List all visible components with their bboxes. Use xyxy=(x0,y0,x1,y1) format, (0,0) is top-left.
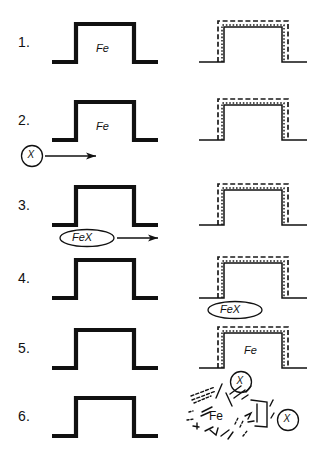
plateau-thick-shape xyxy=(50,324,160,376)
plateau-thin-coated-shape xyxy=(198,18,308,70)
row6-left-specimen xyxy=(50,392,160,444)
row4-left-specimen xyxy=(50,254,160,306)
row2-right-specimen xyxy=(198,96,308,148)
step-number-3: 3. xyxy=(18,197,30,213)
plateau-thin-coated-shape xyxy=(198,181,308,233)
row4-species-fex-label: FeX xyxy=(220,303,240,315)
row1-left-inner-label: Fe xyxy=(96,42,109,54)
row6-right-inner-label: Fe xyxy=(209,409,223,423)
diagram-row-2: 2. Fe X xyxy=(0,90,314,170)
row3-species-fex-label: FeX xyxy=(72,231,92,243)
figure-canvas: 1. Fe 2. xyxy=(0,0,314,466)
row2-left-specimen: Fe xyxy=(50,96,160,148)
row2-species-x-label: X xyxy=(28,149,35,160)
step-number-5: 5. xyxy=(18,340,30,356)
row2-left-inner-label: Fe xyxy=(96,120,109,132)
fragmented-debris-shape xyxy=(185,382,285,444)
plateau-thick-shape xyxy=(50,254,160,306)
diagram-row-1: 1. Fe xyxy=(0,12,314,74)
row1-right-specimen xyxy=(198,18,308,70)
diagram-row-4: 4. FeX xyxy=(0,248,314,326)
row3-right-specimen xyxy=(198,181,308,233)
plateau-thin-coated-shape xyxy=(198,96,308,148)
diagram-row-6: 6. xyxy=(0,386,314,456)
row5-right-inner-label: Fe xyxy=(244,344,257,356)
step-number-4: 4. xyxy=(18,270,30,286)
row1-left-specimen: Fe xyxy=(50,18,160,70)
plateau-thick-shape xyxy=(50,392,160,444)
step-number-1: 1. xyxy=(18,34,30,50)
step-number-2: 2. xyxy=(18,112,30,128)
row6-species-x-label: X xyxy=(284,413,291,424)
diagram-row-3: 3. FeX xyxy=(0,175,314,255)
row5-left-specimen xyxy=(50,324,160,376)
row6-right-fragmented-specimen: Fe xyxy=(185,382,285,444)
row6-annotation-x: X xyxy=(274,406,302,434)
row2-annotation-x-arrow: X xyxy=(18,142,118,170)
step-number-6: 6. xyxy=(18,408,30,424)
